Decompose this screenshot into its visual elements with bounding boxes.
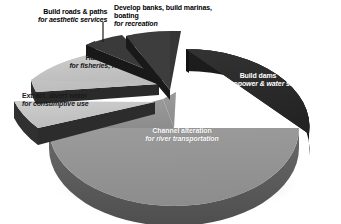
slice-label-dams: Build dams for hydropower & water supply	[196, 72, 320, 88]
slice-label-banks-line1: Develop banks, build marinas,	[114, 4, 212, 12]
slice-label-channel-line1: Channel alteration	[126, 127, 238, 135]
slice-label-dams-line1: Build dams	[196, 72, 320, 80]
slice-label-harvest-line2: for fisheries, food	[56, 62, 140, 70]
slice-label-extract-line2: for consumptive use	[22, 100, 89, 108]
slice-dams-top-fill	[186, 49, 310, 134]
slice-label-roads: Build roads & paths for aesthetic servic…	[38, 8, 107, 24]
slice-label-channel: Channel alteration for river transportat…	[126, 127, 238, 143]
slice-label-roads-line2: for aesthetic services	[38, 16, 107, 24]
slice-label-roads-line1: Build roads & paths	[38, 8, 107, 16]
slice-label-extract-line1: Extract, divert water	[22, 92, 89, 100]
slice-label-banks-line2: for recreation	[114, 20, 212, 28]
slice-label-banks: Develop banks, build marinas, boating fo…	[114, 4, 212, 27]
pie-chart-3d: Build roads & paths for aesthetic servic…	[0, 0, 341, 224]
slice-label-channel-line2: for river transportation	[126, 135, 238, 143]
slice-label-harvest-line1: Harvest	[56, 54, 140, 62]
pie-chart-svg	[0, 0, 341, 224]
slice-label-extract: Extract, divert water for consumptive us…	[22, 92, 89, 108]
slice-label-banks-line1b: boating	[114, 12, 212, 20]
slice-label-dams-line2: for hydropower & water supply	[196, 80, 320, 88]
slice-label-harvest: Harvest for fisheries, food	[56, 54, 140, 70]
